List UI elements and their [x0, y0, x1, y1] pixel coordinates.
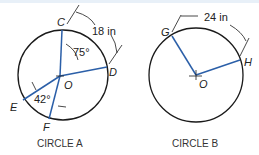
- arc-length-b: 24 in: [204, 11, 228, 23]
- arc-length-a: 18 in: [92, 25, 116, 37]
- point-d-label: D: [109, 66, 117, 78]
- point-e-label: E: [10, 101, 18, 113]
- caption-circle-a: CIRCLE A: [37, 138, 83, 149]
- point-h-label: H: [244, 56, 252, 68]
- center-o-label-b: O: [199, 78, 208, 90]
- point-f-label: F: [43, 121, 51, 133]
- angle-eof-label: 42°: [34, 93, 51, 105]
- point-g-label: G: [161, 26, 170, 38]
- caption-circle-b: CIRCLE B: [172, 138, 218, 149]
- circle-a: C D E F O 18 in 75° 42° CIRCLE A: [10, 5, 122, 149]
- circles-diagram: C D E F O 18 in 75° 42° CIRCLE A G H O 2…: [0, 0, 259, 155]
- point-c-label: C: [57, 16, 65, 28]
- circle-b: G H O 24 in CIRCLE B: [149, 11, 252, 149]
- center-o-label-a: O: [64, 79, 73, 91]
- angle-cod-label: 75°: [73, 46, 90, 58]
